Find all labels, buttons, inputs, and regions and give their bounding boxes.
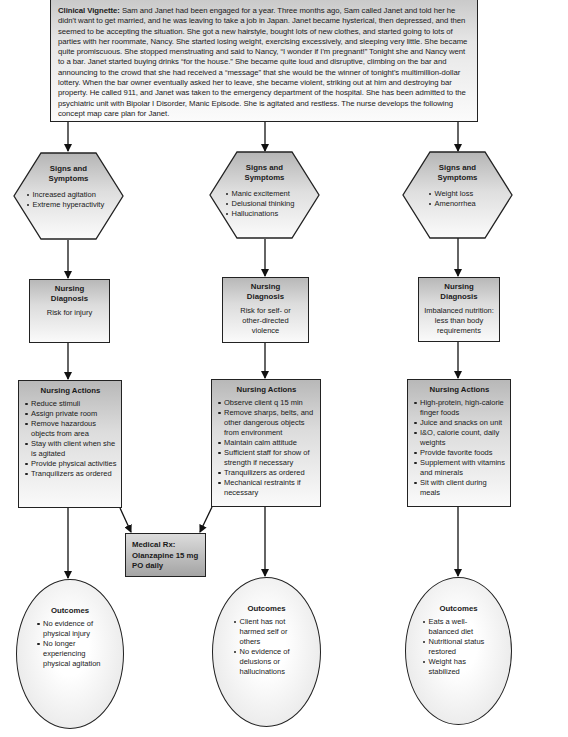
rx-frequency: PO daily [132, 561, 199, 572]
list-item: Assign private room [24, 409, 117, 419]
signs-list: Manic excitement Delusional thinking Hal… [225, 189, 305, 219]
list-item: Reduce stimuli [24, 399, 117, 409]
nursing-diagnosis-box-injury: NursingDiagnosis Risk for injury [29, 279, 110, 343]
list-item: Observe client q 15 min [217, 398, 316, 408]
diagnosis-title: NursingDiagnosis [223, 282, 308, 302]
medical-rx-box: Medical Rx: Olanzapine 15 mg PO daily [125, 533, 206, 577]
actions-list: Reduce stimuli Assign private room Remov… [24, 399, 117, 479]
clinical-vignette-box: Clinical Vignette: Sam and Janet had bee… [50, 0, 478, 122]
list-item: Maintain calm attitude [217, 438, 316, 448]
nursing-actions-box-injury: Nursing Actions Reduce stimuli Assign pr… [18, 380, 122, 508]
vignette-label: Clinical Vignette: [58, 6, 120, 15]
list-item: Increased agitation [26, 190, 112, 200]
signs-symptoms-hexagon-nutrition: Signs andSymptoms Weight loss Amenorrhea [402, 151, 513, 239]
actions-list: Observe client q 15 min Remove sharps, b… [217, 398, 316, 498]
list-item: Sufficient staff for show of strength if… [217, 448, 316, 468]
actions-title: Nursing Actions [24, 386, 117, 396]
list-item: Delusional thinking [225, 199, 305, 209]
list-item: Manic excitement [225, 189, 305, 199]
nursing-diagnosis-box-violence: NursingDiagnosis Risk for self- or other… [222, 277, 309, 343]
outcomes-title: Outcomes [213, 604, 320, 614]
diagnosis-title: NursingDiagnosis [30, 284, 109, 304]
nursing-diagnosis-box-nutrition: NursingDiagnosis Imbalanced nutrition: l… [418, 277, 500, 342]
outcomes-ellipse-nutrition: Outcomes Eats a well-balanced diet Nutri… [405, 577, 512, 725]
list-item: Amenorrhea [428, 199, 488, 209]
list-item: Hallucinations [225, 209, 305, 219]
rx-drug: Olanzapine 15 mg [132, 551, 199, 562]
signs-symptoms-hexagon-violence: Signs andSymptoms Manic excitement Delus… [209, 151, 320, 239]
list-item: No longer experiencing physical agitatio… [36, 639, 104, 669]
outcomes-list: No evidence of physical injury No longer… [36, 619, 104, 669]
list-item: I&O, calorie count, daily weights [413, 428, 506, 448]
list-item: Extreme hyperactivity [26, 200, 112, 210]
list-item: Juice and snacks on unit [413, 418, 506, 428]
signs-title: Signs andSymptoms [402, 163, 513, 183]
list-item: Nutritional status restored [422, 637, 496, 657]
list-item: No evidence of physical injury [36, 619, 104, 639]
outcomes-list: Client has not harmed self or others No … [233, 617, 301, 677]
list-item: High-protein, high-calorie finger foods [413, 398, 506, 418]
outcomes-list: Eats a well-balanced diet Nutritional st… [422, 617, 496, 677]
list-item: Supplement with vitamins and minerals [413, 458, 506, 478]
outcomes-ellipse-violence: Outcomes Client has not harmed self or o… [212, 577, 321, 727]
list-item: Client has not harmed self or others [233, 617, 301, 647]
rx-label: Medical Rx: [132, 540, 199, 551]
signs-list: Weight loss Amenorrhea [428, 189, 488, 209]
nursing-actions-box-violence: Nursing Actions Observe client q 15 min … [211, 379, 321, 507]
list-item: Weight has stabilized [422, 657, 496, 677]
list-item: Remove hazardous objects from area [24, 419, 117, 439]
outcomes-title: Outcomes [406, 604, 511, 614]
list-item: No evidence of delusions or hallucinatio… [233, 647, 301, 677]
signs-title: Signs andSymptoms [13, 164, 124, 184]
signs-title: Signs andSymptoms [209, 163, 320, 183]
actions-list: High-protein, high-calorie finger foods … [413, 398, 506, 498]
nursing-actions-box-nutrition: Nursing Actions High-protein, high-calor… [407, 379, 511, 507]
actions-title: Nursing Actions [217, 385, 316, 395]
diagnosis-text: Imbalanced nutrition: less than body req… [419, 306, 499, 336]
list-item: Provide physical activities [24, 459, 117, 469]
list-item: Sit with client during meals [413, 478, 506, 498]
list-item: Tranquilizers as ordered [217, 468, 316, 478]
actions-title: Nursing Actions [413, 385, 506, 395]
signs-list: Increased agitation Extreme hyperactivit… [26, 190, 112, 210]
list-item: Stay with client when she is agitated [24, 439, 117, 459]
diagnosis-text: Risk for injury [30, 308, 109, 318]
list-item: Mechanical restraints if necessary [217, 478, 316, 498]
diagnosis-title: NursingDiagnosis [419, 282, 499, 302]
outcomes-title: Outcomes [17, 606, 123, 616]
list-item: Remove sharps, belts, and other dangerou… [217, 408, 316, 438]
signs-symptoms-hexagon-injury: Signs andSymptoms Increased agitation Ex… [13, 152, 124, 240]
list-item: Eats a well-balanced diet [422, 617, 496, 637]
list-item: Weight loss [428, 189, 488, 199]
diagnosis-text: Risk for self- or other-directed violenc… [223, 306, 308, 336]
list-item: Provide favorite foods [413, 448, 506, 458]
outcomes-ellipse-injury: Outcomes No evidence of physical injury … [16, 579, 124, 729]
list-item: Tranquilizers as ordered [24, 469, 117, 479]
vignette-text: Sam and Janet had been engaged for a yea… [58, 6, 467, 118]
